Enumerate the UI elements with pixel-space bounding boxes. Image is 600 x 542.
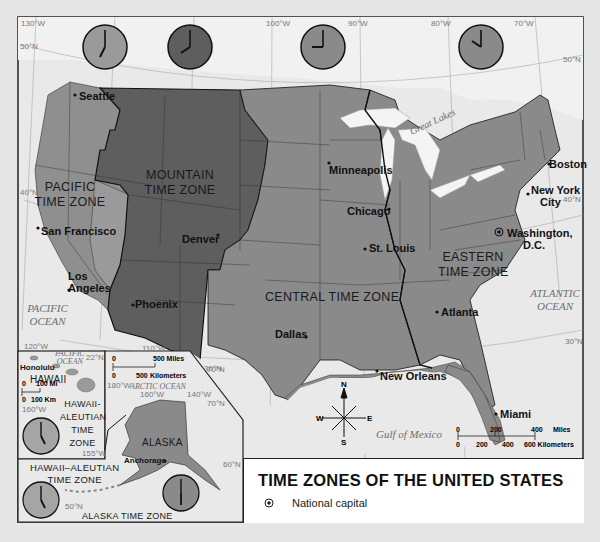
eastern-zone-label: EASTERNTIME ZONE: [438, 250, 508, 280]
pacific-ocean-label: PACIFICOCEAN: [20, 302, 75, 328]
city-chicago: Chicago: [347, 205, 390, 217]
scale-mi-400: 400: [531, 426, 543, 433]
scale-km-label: 600 Kilometers: [524, 441, 574, 448]
scale-km-200: 200: [476, 441, 488, 448]
legend-item-national-capital: National capital: [264, 497, 367, 509]
ak-lat-70: 70°N: [207, 399, 225, 408]
inset-lon-155: 155°W: [82, 449, 106, 458]
clock-eastern-icon: [459, 25, 503, 69]
city-miami: Miami: [500, 408, 531, 420]
city-anchorage: Anchorage: [124, 455, 166, 467]
hawaii-scale-km-100: 100 Km: [31, 396, 56, 403]
city-los-angeles-2: Angeles: [68, 282, 111, 294]
clock-aleutian-icon: [23, 482, 59, 518]
national-capital-icon: [264, 498, 274, 508]
lon-label-110: 110°W: [142, 344, 166, 353]
hawaii-scale-mi-100: 100 Mi: [36, 380, 57, 387]
pacific-zone-label: PACIFICTIME ZONE: [30, 180, 110, 210]
scale-mi-label: Miles: [553, 426, 571, 433]
city-minneapolis: Minneapolis: [329, 164, 393, 176]
clock-pacific-icon: [83, 25, 127, 69]
compass-e: E: [367, 414, 372, 423]
scale-km-0: 0: [456, 441, 460, 448]
lat-label-50e: 50°N: [563, 55, 581, 64]
lon-label-100: 100°W: [266, 19, 290, 28]
ak-scale-km-500: 500: [136, 372, 148, 379]
central-zone-label: CENTRAL TIME ZONE: [265, 290, 399, 305]
city-new-york-1: New York: [531, 184, 580, 196]
city-new-york-2: City: [540, 196, 561, 208]
clock-alaska-icon: [163, 475, 199, 511]
ak-scale-km-0: 0: [112, 372, 116, 379]
lat-label-30e: 30°N: [565, 337, 583, 346]
atlantic-ocean-label: ATLANTICOCEAN: [520, 287, 590, 313]
inset-pacific-ocean-label: PACIFICOCEAN: [55, 350, 85, 366]
city-washington-2: D.C.: [523, 239, 545, 251]
lat-label-40e: 40°N: [563, 195, 581, 204]
hawaii-scale-mi-0: 0: [22, 380, 26, 387]
map-title: TIME ZONES OF THE UNITED STATES: [258, 471, 563, 490]
ak-lon-140: 140°W: [187, 390, 211, 399]
lon-label-120: 120°W: [24, 342, 48, 351]
clock-central-icon: [301, 25, 345, 69]
lat-label-50: 50°N: [20, 42, 38, 51]
hawaii-aleutian-zone-label: HAWAII-ALEUTIANTIMEZONE: [60, 398, 105, 450]
city-los-angeles-1: Los: [68, 270, 88, 282]
ak-lat-60: 60°N: [223, 460, 241, 469]
lon-label-80: 80°W: [431, 19, 451, 28]
city-denver: Denver: [182, 233, 219, 245]
city-atlanta: Atlanta: [441, 306, 478, 318]
alaska-label: ALASKA: [142, 435, 183, 450]
city-dallas: Dallas: [275, 328, 307, 340]
clock-mountain-icon: [168, 25, 212, 69]
ak-scale-mi-500: 500 Miles: [153, 355, 184, 362]
legend-box: TIME ZONES OF THE UNITED STATES National…: [243, 458, 584, 523]
ak-lon-180: 180°W: [107, 381, 131, 390]
hawaii-aleutian-alt-label: HAWAII–ALEUTIANTIME ZONE: [30, 462, 119, 486]
ak-lat-50: 50°N: [65, 502, 83, 511]
legend-label: National capital: [292, 497, 367, 509]
alaska-zone-label: ALASKA TIME ZONE: [82, 509, 173, 524]
scale-km-400: 400: [502, 441, 514, 448]
ak-scale-mi-0: 0: [112, 355, 116, 362]
gulf-of-mexico-label: Gulf of Mexico: [376, 428, 442, 441]
scale-mi-0: 0: [456, 426, 460, 433]
hawaii-scale-km-0: 0: [22, 396, 26, 403]
city-new-orleans: New Orleans: [380, 370, 447, 382]
clock-hawaii-icon: [23, 418, 59, 454]
ak-lon-160: 160°W: [140, 390, 164, 399]
inset-lat-22: 22°N: [86, 353, 104, 362]
ak-lat-70b: 70°N: [207, 365, 225, 374]
city-boston: Boston: [549, 158, 587, 170]
city-phoenix: Phoenix: [135, 298, 178, 310]
scale-mi-200: 200: [490, 426, 502, 433]
city-st-louis: St. Louis: [369, 242, 415, 254]
compass-n: N: [341, 380, 347, 389]
city-washington-1: Washington,: [507, 227, 573, 239]
ak-scale-km-label: Kilometers: [150, 372, 186, 379]
inset-lon-160: 160°W: [22, 405, 46, 414]
lon-label-90: 90°W: [348, 19, 368, 28]
city-seattle: Seattle: [79, 90, 115, 102]
compass-s: S: [341, 438, 346, 447]
city-san-francisco: San Francisco: [41, 225, 116, 237]
lon-label-130: 130°W: [21, 19, 45, 28]
mountain-zone-label: MOUNTAINTIME ZONE: [135, 168, 225, 198]
lon-label-70: 70°W: [514, 19, 534, 28]
compass-w: W: [316, 414, 324, 423]
